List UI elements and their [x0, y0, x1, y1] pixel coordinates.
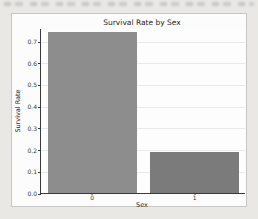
y-tick-mark [38, 107, 41, 108]
bar-category-1 [150, 152, 239, 193]
y-tick-label: 0.3 [27, 126, 37, 132]
y-tick-label: 0.0 [27, 191, 37, 197]
y-tick-mark [38, 172, 41, 173]
cropped-content-artifact [4, 2, 254, 6]
plot-area: 0.00.10.20.30.40.50.60.701 [40, 29, 245, 194]
y-tick-label: 0.7 [27, 39, 37, 45]
screenshot-root: { "page": { "background_color": "#e9e8e4… [0, 0, 258, 219]
y-tick-label: 0.4 [27, 104, 37, 110]
y-tick-mark [38, 150, 41, 151]
y-tick-label: 0.2 [27, 148, 37, 154]
y-tick-mark [38, 128, 41, 129]
x-axis-label: Sex [40, 202, 244, 209]
y-tick-label: 0.5 [27, 82, 37, 88]
x-tick-label: 1 [193, 195, 197, 201]
y-tick-mark [38, 63, 41, 64]
bar-category-0 [48, 32, 137, 193]
y-tick-mark [38, 42, 41, 43]
chart-figure: Survival Rate by Sex Survival Rate 0.00.… [11, 13, 247, 207]
y-tick-label: 0.6 [27, 61, 37, 67]
chart-title: Survival Rate by Sex [40, 18, 244, 27]
y-axis-label-text: Survival Rate [15, 89, 22, 132]
y-tick-label: 0.1 [27, 169, 37, 175]
y-tick-mark [38, 194, 41, 195]
y-tick-mark [38, 85, 41, 86]
x-tick-label: 0 [90, 195, 94, 201]
